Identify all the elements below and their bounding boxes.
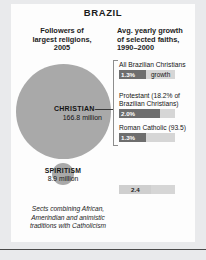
growth-bar-row: 1.3% growth bbox=[119, 70, 203, 79]
footnote-line2: Amerindian and animistic bbox=[16, 214, 120, 223]
growth-entry-label: Protestant (18.2% of Brazilian Christian… bbox=[119, 92, 203, 108]
footnote-line3: traditions with Catholicism bbox=[16, 222, 120, 231]
footnote-spiritism: Sects combining African, Amerindian and … bbox=[16, 205, 120, 231]
bubble-christian-value: 166.8 million bbox=[28, 113, 102, 122]
bottom-divider bbox=[0, 249, 206, 250]
bubble-spiritism-value: 8.9 million bbox=[17, 175, 109, 183]
growth-entry-label-line1: Protestant (18.2% of bbox=[119, 92, 203, 100]
growth-bar-row: 1.3% bbox=[119, 133, 203, 142]
column-header-growth: Avg. yearly growth of selected faiths, 1… bbox=[117, 27, 201, 53]
growth-entry-roman-catholic: Roman Catholic (93.5) 1.3% bbox=[119, 124, 203, 142]
leader-line-christian bbox=[100, 109, 114, 110]
growth-entry-label-line2: Brazilian Christians) bbox=[119, 100, 203, 108]
infographic-brazil-religions: BRAZIL Followers of largest religions, 2… bbox=[0, 0, 206, 260]
growth-entry-label: All Brazilian Christians bbox=[119, 61, 203, 69]
column-header-growth-line3: 1990–2000 bbox=[117, 44, 201, 53]
footnote-line1: Sects combining African, bbox=[16, 205, 120, 214]
bubble-christian-name: CHRISTIAN— bbox=[28, 104, 102, 113]
bubble-christian-label: CHRISTIAN— 166.8 million bbox=[28, 104, 102, 122]
grouping-bracket bbox=[113, 60, 118, 146]
bubble-spiritism-name: SPIRITISM bbox=[17, 167, 109, 175]
bubble-spiritism-label: SPIRITISM 8.9 million bbox=[17, 167, 109, 184]
growth-bar-value: 2.0% bbox=[121, 109, 135, 118]
growth-entry-label: Roman Catholic (93.5) bbox=[119, 124, 203, 132]
page-title: BRAZIL bbox=[0, 7, 206, 18]
growth-entry-all-brazilian-christians: All Brazilian Christians 1.3% growth bbox=[119, 61, 203, 79]
growth-bar-value: 2.4 bbox=[131, 185, 140, 194]
column-header-followers-line3: 2005 bbox=[22, 44, 102, 53]
growth-entry-spiritism: 2.4 bbox=[119, 185, 203, 194]
growth-bar-value: 1.3% bbox=[121, 70, 135, 79]
column-header-followers: Followers of largest religions, 2005 bbox=[22, 27, 102, 53]
growth-bar-value: 1.3% bbox=[121, 133, 135, 142]
growth-bar-note: growth bbox=[151, 70, 170, 79]
growth-bar-row: 2.0% bbox=[119, 109, 203, 118]
growth-bar-row: 2.4 bbox=[119, 185, 203, 194]
growth-entry-protestant: Protestant (18.2% of Brazilian Christian… bbox=[119, 92, 203, 118]
